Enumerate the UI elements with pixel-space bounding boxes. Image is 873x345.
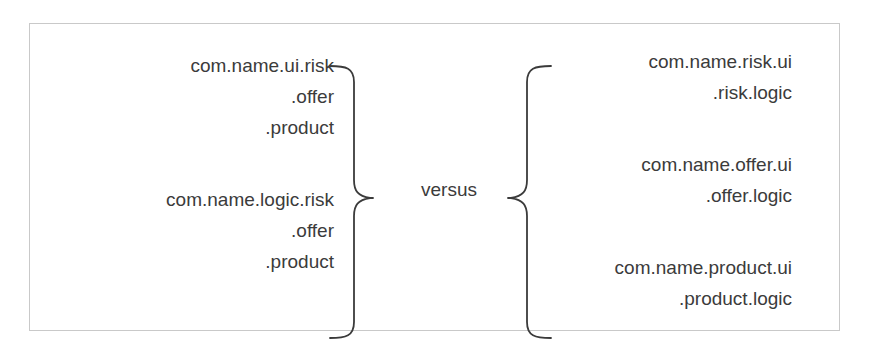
diagram-page: com.name.ui.risk .offer .product com.nam… [0,0,873,345]
diagram-frame: com.name.ui.risk .offer .product com.nam… [29,23,840,331]
package-line: .offer [66,215,334,246]
package-line: com.name.ui.risk [66,50,334,81]
package-group: com.name.logic.risk .offer .product [66,184,334,277]
right-facing-curly-brace-icon [328,60,374,344]
package-line: .product [66,246,334,277]
package-line: com.name.logic.risk [66,184,334,215]
versus-label: versus [421,178,477,202]
right-package-column: com.name.risk.ui .risk.logic com.name.of… [500,46,792,314]
package-line: .offer [66,81,334,112]
left-package-column: com.name.ui.risk .offer .product com.nam… [66,50,334,277]
package-line: .risk.logic [500,77,792,108]
package-group: com.name.product.ui .product.logic [500,252,792,314]
package-group: com.name.risk.ui .risk.logic [500,46,792,108]
package-line: .offer.logic [500,180,792,211]
package-line: com.name.offer.ui [500,149,792,180]
package-line: .product [66,112,334,143]
package-group: com.name.ui.risk .offer .product [66,50,334,143]
package-line: com.name.risk.ui [500,46,792,77]
package-group: com.name.offer.ui .offer.logic [500,149,792,211]
package-line: com.name.product.ui [500,252,792,283]
package-line: .product.logic [500,283,792,314]
